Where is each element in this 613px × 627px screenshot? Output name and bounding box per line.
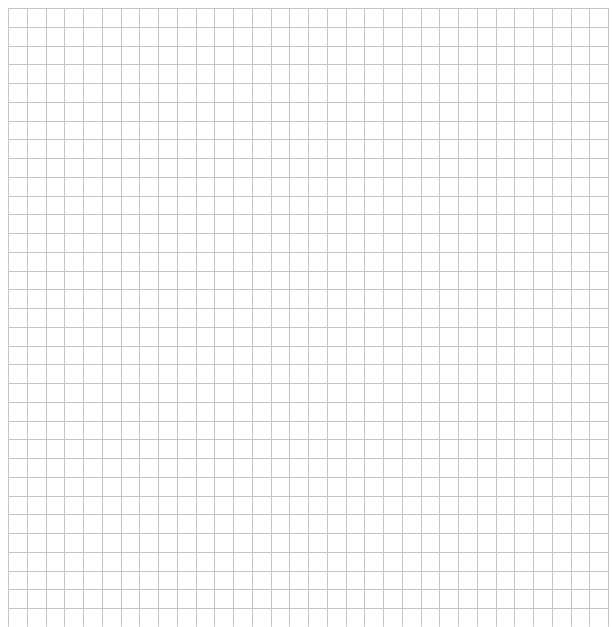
graph-paper-grid: [0, 0, 613, 627]
